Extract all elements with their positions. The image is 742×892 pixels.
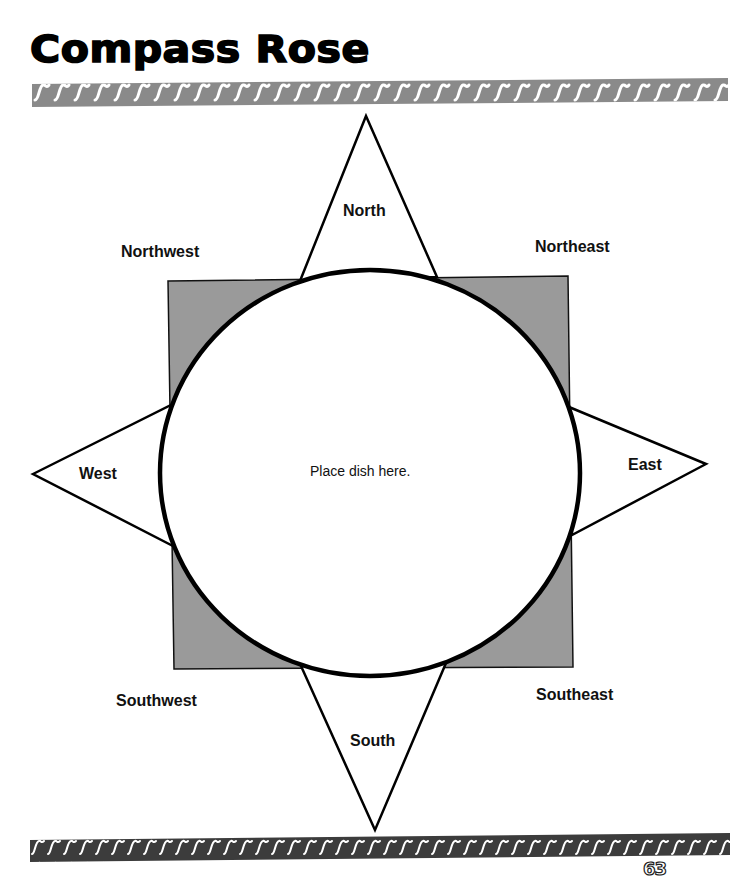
bottom-decorative-band <box>30 833 730 862</box>
label-north: North <box>343 202 386 220</box>
label-northwest: Northwest <box>121 243 199 261</box>
north-point <box>300 116 437 281</box>
page-number: 63 <box>643 858 666 879</box>
label-west: West <box>79 465 117 483</box>
compass-rose-diagram <box>0 0 742 892</box>
label-southwest: Southwest <box>116 692 197 710</box>
label-southeast: Southeast <box>536 686 613 704</box>
label-northeast: Northeast <box>535 238 610 256</box>
center-instruction: Place dish here. <box>310 463 410 479</box>
top-decorative-band <box>32 78 728 107</box>
label-east: East <box>628 456 662 474</box>
label-south: South <box>350 732 395 750</box>
